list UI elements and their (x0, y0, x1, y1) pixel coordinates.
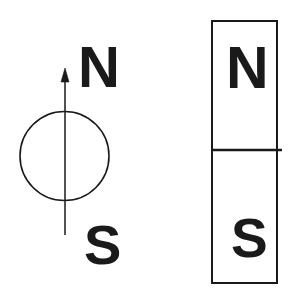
compass-north-label: N (78, 38, 120, 96)
figure-canvas: N S N S (0, 0, 299, 295)
bar-magnet-north-label: N (226, 39, 269, 98)
bar-magnet-south-label: S (231, 211, 268, 266)
compass-needle-arrowhead-icon (61, 68, 69, 82)
compass-south-label: S (84, 217, 121, 273)
